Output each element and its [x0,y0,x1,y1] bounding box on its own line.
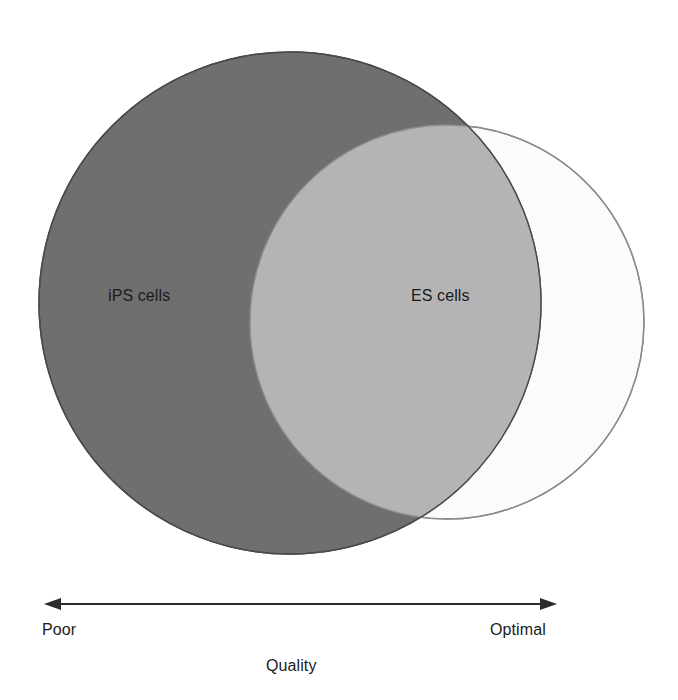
axis-label-optimal: Optimal [490,622,546,638]
es-cells-label: ES cells [411,288,470,304]
axis-label-poor: Poor [42,622,76,638]
arrow-head-right-icon [540,598,557,610]
figure-root: iPS cells ES cells Poor Optimal Quality [0,0,678,700]
arrow-head-left-icon [44,598,61,610]
quality-axis-arrow [44,598,557,610]
ips-cells-label: iPS cells [108,288,170,304]
venn-diagram-svg [0,0,678,700]
axis-title-quality: Quality [266,658,317,674]
